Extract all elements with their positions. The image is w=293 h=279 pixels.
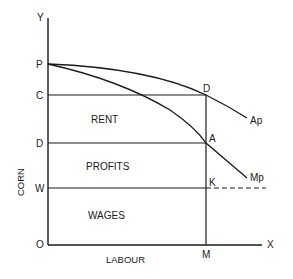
- x-axis-label: X: [267, 239, 274, 250]
- point-w-label: W: [35, 183, 45, 194]
- ap-curve-label: Ap: [250, 115, 263, 126]
- y-axis-label: Y: [37, 12, 44, 23]
- y-axis-title: CORN: [15, 168, 26, 196]
- mp-curve-label: Mp: [250, 172, 264, 183]
- point-c-label: C: [36, 90, 43, 101]
- point-p-label: P: [36, 59, 43, 70]
- point-a-label: A: [209, 133, 216, 144]
- origin-label: O: [36, 239, 44, 250]
- marginal-product-curve: [48, 64, 247, 178]
- wages-region-label: WAGES: [88, 210, 125, 221]
- rent-region-label: RENT: [91, 114, 118, 125]
- point-m-label: M: [202, 249, 210, 260]
- point-d-top-label: D: [203, 83, 210, 94]
- rent-profits-wages-diagram: Y X O P C D W M D A K Ap Mp RENT PROFITS…: [0, 0, 293, 279]
- profits-region-label: PROFITS: [86, 161, 130, 172]
- point-d-label: D: [36, 138, 43, 149]
- point-k-label: K: [209, 177, 216, 188]
- x-axis-title: LABOUR: [106, 254, 145, 265]
